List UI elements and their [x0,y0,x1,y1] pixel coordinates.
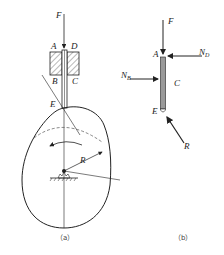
figure-b: F A C E R ND NB （b） [120,16,210,242]
force-r-arrow [167,117,184,143]
figure-a: F A D B C E R （a） [22,10,120,242]
rod-free-body [161,57,166,109]
label-f: F [55,10,62,20]
label-c: C [72,76,79,86]
label-f-b: F [167,16,174,26]
guide-block-right [67,52,79,75]
rotation-arrow [50,142,82,146]
caption-b: （b） [174,234,192,242]
label-b: B [52,76,58,86]
label-a-b: A [152,49,159,59]
label-r: R [79,155,86,165]
cam-profile [22,107,111,228]
label-nb: NB [120,70,131,81]
label-e-b: E [151,106,158,116]
guide-block-left [50,52,62,75]
label-e: E [49,99,56,109]
label-r-b: R [183,141,190,151]
dashed-arc [34,127,102,142]
label-d: D [70,41,78,51]
label-a: A [50,41,57,51]
label-nd: ND [198,47,210,58]
caption-a: （a） [56,234,74,242]
cam-follower-diagram: F A D B C E R （a） F A C E R ND NB （b） [0,0,224,255]
label-c-b: C [174,78,181,88]
